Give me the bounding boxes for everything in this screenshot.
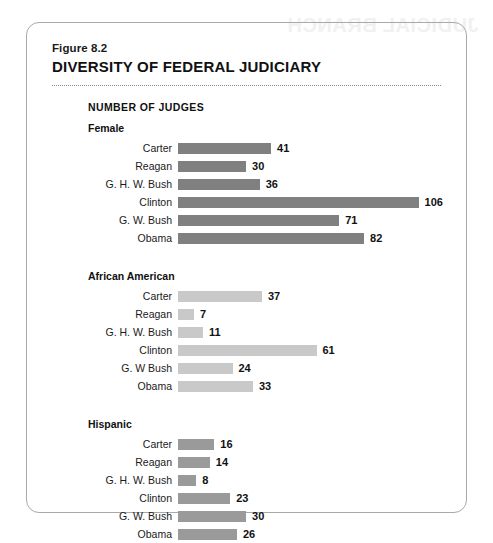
bar-value-label: 30 <box>246 160 264 172</box>
bar-row: G. H. W. Bush11 <box>88 323 446 341</box>
bar-value-label: 30 <box>246 510 264 522</box>
bar-track: 7 <box>178 308 446 320</box>
chart-group: FemaleCarter41Reagan30G. H. W. Bush36Cli… <box>88 122 446 247</box>
bar <box>178 345 317 356</box>
bar <box>178 363 233 374</box>
bar-value-label: 71 <box>339 214 357 226</box>
bar-track: 37 <box>178 290 446 302</box>
bar <box>178 439 214 450</box>
bar <box>178 291 262 302</box>
bar-value-label: 41 <box>271 142 289 154</box>
bar-value-label: 24 <box>233 362 251 374</box>
bar-category-label: Clinton <box>88 196 178 208</box>
chart-groups: FemaleCarter41Reagan30G. H. W. Bush36Cli… <box>88 122 446 543</box>
bar-row: Obama82 <box>88 229 446 247</box>
bar-row: G. W. Bush30 <box>88 507 446 525</box>
bar <box>178 475 196 486</box>
bar-track: 33 <box>178 380 446 392</box>
bar-category-label: G. H. W. Bush <box>88 326 178 338</box>
bar <box>178 161 246 172</box>
bar-row: Obama26 <box>88 525 446 543</box>
bar-track: 61 <box>178 344 446 356</box>
bar-row: Carter16 <box>88 435 446 453</box>
bar-value-label: 7 <box>194 308 206 320</box>
bar-category-label: G. W Bush <box>88 362 178 374</box>
bar-track: 106 <box>178 196 446 208</box>
bar-track: 36 <box>178 178 446 190</box>
bar <box>178 179 260 190</box>
bar-category-label: Reagan <box>88 160 178 172</box>
bar-value-label: 106 <box>419 196 443 208</box>
bar <box>178 457 210 468</box>
chart-axis-heading: NUMBER OF JUDGES <box>88 101 446 114</box>
bar-category-label: Clinton <box>88 344 178 356</box>
chart-group-title: African American <box>88 270 446 283</box>
bar-value-label: 14 <box>210 456 228 468</box>
bar-category-label: Reagan <box>88 456 178 468</box>
bar-row: Clinton23 <box>88 489 446 507</box>
bar-row: G. H. W. Bush8 <box>88 471 446 489</box>
bar-track: 8 <box>178 474 446 486</box>
title-divider <box>52 85 441 86</box>
bar-value-label: 11 <box>203 326 221 338</box>
bar <box>178 511 246 522</box>
bar-category-label: G. W. Bush <box>88 214 178 226</box>
bar-chart: NUMBER OF JUDGES FemaleCarter41Reagan30G… <box>88 101 446 543</box>
bar-category-label: Carter <box>88 438 178 450</box>
bar <box>178 381 253 392</box>
bar-track: 16 <box>178 438 446 450</box>
bar-track: 30 <box>178 510 446 522</box>
bar-row: Obama33 <box>88 377 446 395</box>
bar-value-label: 16 <box>214 438 232 450</box>
bar-row: Reagan14 <box>88 453 446 471</box>
bar-track: 14 <box>178 456 446 468</box>
bar-track: 23 <box>178 492 446 504</box>
bar <box>178 493 230 504</box>
chart-group-title: Female <box>88 122 446 135</box>
bar <box>178 529 237 540</box>
bar <box>178 143 271 154</box>
bar-value-label: 26 <box>237 528 255 540</box>
bar-value-label: 8 <box>196 474 208 486</box>
bar-category-label: G. H. W. Bush <box>88 178 178 190</box>
bar-track: 26 <box>178 528 446 540</box>
bar-track: 30 <box>178 160 446 172</box>
bar-row: G. H. W. Bush36 <box>88 175 446 193</box>
bar-row: Clinton61 <box>88 341 446 359</box>
figure-content: Figure 8.2 DIVERSITY OF FEDERAL JUDICIAR… <box>52 41 446 543</box>
bar-row: Reagan7 <box>88 305 446 323</box>
figure-number: Figure 8.2 <box>52 41 446 55</box>
chart-group: HispanicCarter16Reagan14G. H. W. Bush8Cl… <box>88 418 446 543</box>
bar <box>178 309 194 320</box>
bar-row: Carter37 <box>88 287 446 305</box>
bar-row: Clinton106 <box>88 193 446 211</box>
bar-category-label: Obama <box>88 528 178 540</box>
bar <box>178 233 364 244</box>
bar-value-label: 36 <box>260 178 278 190</box>
bar-category-label: G. W. Bush <box>88 510 178 522</box>
bar-category-label: Reagan <box>88 308 178 320</box>
bar-track: 82 <box>178 232 446 244</box>
chart-group: African AmericanCarter37Reagan7G. H. W. … <box>88 270 446 395</box>
bar-category-label: Carter <box>88 142 178 154</box>
bar-row: G. W Bush24 <box>88 359 446 377</box>
bar-value-label: 37 <box>262 290 280 302</box>
bar <box>178 197 419 208</box>
bar-value-label: 33 <box>253 380 271 392</box>
bar-category-label: Clinton <box>88 492 178 504</box>
bar-track: 24 <box>178 362 446 374</box>
bar <box>178 327 203 338</box>
bar-value-label: 23 <box>230 492 248 504</box>
bar-row: Reagan30 <box>88 157 446 175</box>
bar-category-label: G. H. W. Bush <box>88 474 178 486</box>
bar-track: 71 <box>178 214 446 226</box>
figure-title: DIVERSITY OF FEDERAL JUDICIARY <box>52 57 446 76</box>
bar-value-label: 82 <box>364 232 382 244</box>
bar-category-label: Obama <box>88 232 178 244</box>
bar-track: 11 <box>178 326 446 338</box>
bar-category-label: Carter <box>88 290 178 302</box>
bar-value-label: 61 <box>317 344 335 356</box>
figure-card: Figure 8.2 DIVERSITY OF FEDERAL JUDICIAR… <box>26 22 467 513</box>
bar-category-label: Obama <box>88 380 178 392</box>
bar-row: G. W. Bush71 <box>88 211 446 229</box>
